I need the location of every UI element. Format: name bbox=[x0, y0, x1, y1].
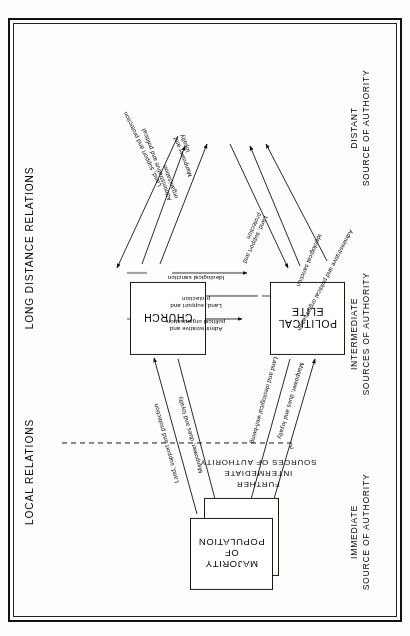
diagram-page: STATE CHURCH POLITICAL ELITE MAJORITY OF… bbox=[0, 0, 410, 636]
edge-elite-to-population bbox=[178, 359, 220, 518]
caption-long-distance-relations: LONG DISTANCE RELATIONS bbox=[24, 148, 36, 348]
caption-distant-source-of-authority: DISTANT SOURCE OF AUTHORITY bbox=[348, 48, 372, 208]
caption-local-relations: LOCAL RELATIONS bbox=[24, 382, 36, 562]
box-majority-of-population-label: MAJORITY OF POPULATION bbox=[198, 538, 265, 571]
edge-church-to-state-mid bbox=[250, 146, 300, 266]
label-church-to-elite-top: Ideological sanction bbox=[148, 275, 244, 282]
further-intermediate-sources-label: FURTHER INTERMEDIATE SOURCES OF AUTHORIT… bbox=[198, 457, 318, 490]
caption-intermediate-sources-of-authority: INTERMEDIATE SOURCES OF AUTHORITY bbox=[348, 254, 372, 414]
box-majority-of-population[interactable]: MAJORITY OF POPULATION bbox=[190, 518, 273, 590]
dashed-question-marker: ? bbox=[289, 443, 294, 450]
label-church-to-elite-bottom: Administrative and political organisatio… bbox=[142, 318, 250, 333]
diagram-canvas: STATE CHURCH POLITICAL ELITE MAJORITY OF… bbox=[0, 0, 410, 636]
label-elite-to-church-mid: Land, support and protection bbox=[135, 295, 257, 310]
caption-immediate-source-of-authority: IMMEDIATE SOURCE OF AUTHORITY bbox=[348, 452, 372, 612]
